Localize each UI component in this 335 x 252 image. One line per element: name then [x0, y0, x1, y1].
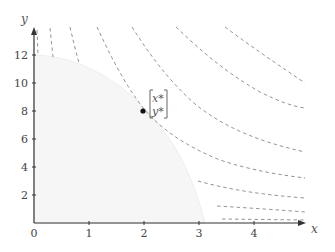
contour-level-10	[222, 219, 305, 220]
x-axis-label: x	[311, 222, 318, 236]
y-tick-2: 2	[21, 189, 28, 202]
x-tick-3: 3	[196, 227, 203, 240]
optimum-label: x* y*	[150, 90, 167, 118]
x-tick-0: 0	[31, 227, 38, 240]
right-bracket	[164, 90, 167, 118]
x-tick-4: 4	[251, 227, 258, 240]
y-tick-12: 12	[14, 49, 28, 62]
y-tick-labels: 2 4 6 8 10 12	[14, 49, 28, 202]
contour-level-6	[176, 27, 305, 108]
y-tick-4: 4	[21, 161, 28, 174]
feasible-region	[34, 55, 205, 223]
x-tick-2: 2	[141, 227, 148, 240]
contour-level-8	[198, 181, 305, 198]
x-axis-arrow-icon	[298, 220, 306, 226]
y-axis-arrow-icon	[31, 27, 37, 35]
contour-level-1	[37, 30, 38, 55]
contour-plot: 0 1 2 3 4 2 4 6 8 10 12 x y	[0, 0, 335, 252]
contour-level-7	[225, 27, 305, 83]
y-tick-6: 6	[21, 133, 28, 146]
contour-level-3	[70, 27, 79, 63]
contour-level-9	[217, 206, 305, 212]
optimum-label-y: y*	[151, 105, 164, 118]
x-tick-labels: 0 1 2 3 4	[31, 227, 258, 240]
optimum-label-x: x*	[152, 92, 164, 105]
y-tick-8: 8	[21, 105, 28, 118]
y-axis-label: y	[20, 12, 28, 26]
y-tick-10: 10	[14, 77, 28, 90]
optimum-point	[140, 108, 145, 113]
chart: 0 1 2 3 4 2 4 6 8 10 12 x y	[0, 0, 335, 252]
x-tick-1: 1	[86, 227, 93, 240]
contour-level-2	[50, 28, 53, 57]
